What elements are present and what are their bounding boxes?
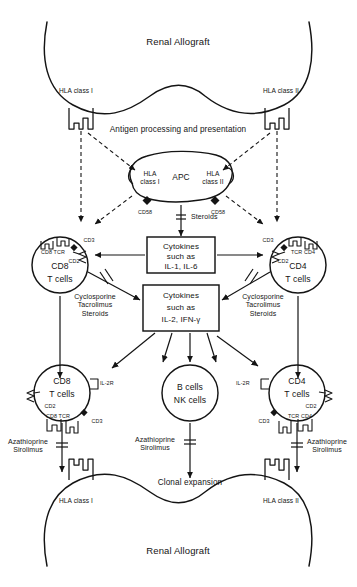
cd8-lower-line1: CD8 [53, 376, 71, 386]
cd8-upper-tcr-slot-b [57, 238, 69, 246]
proliferation-inhibitor-center-label: Azathioprine Sirolimus [135, 436, 175, 453]
arrow-il2-to-cd8-lower [112, 333, 155, 368]
graft-title-top: Renal Allograft [146, 36, 209, 47]
cytokine-box-1-line3: IL-1, IL-6 [164, 262, 197, 271]
cd4-lower-line2: T cells [284, 389, 309, 399]
arrow-il2-to-bnk-right [207, 333, 216, 362]
cd8-lower-cd3-label: CD3 [91, 418, 102, 424]
arrow-il2-to-cd4-lower [217, 336, 258, 366]
inhibition-bar-right-a [250, 272, 258, 284]
apc-cd58-left-label: CD58 [138, 209, 152, 215]
cd8-lower-il2r-receptor [90, 379, 98, 389]
apc-hla-class-i-label: HLA class I [140, 170, 159, 186]
cd4-lower-il2r-label: IL-2R [236, 380, 250, 386]
cd4-upper-line1: CD4 [289, 261, 307, 271]
dashed-arrow-apc-to-cd4 [226, 196, 263, 224]
graft-title-bottom: Renal Allograft [146, 545, 209, 556]
dashed-arrow-hla1-to-apc [88, 133, 135, 170]
apc-label: APC [172, 173, 190, 183]
cd8-upper-cd2-stem [73, 252, 79, 254]
cd4-lower-cd2-stem [319, 392, 325, 393]
inhibition-bar-left-b [105, 269, 113, 281]
inhibition-bar-right-b [245, 269, 253, 281]
cd4-upper-line2: T cells [285, 274, 310, 284]
cytokine-box-1-line2: such as [167, 252, 195, 261]
cd4-lower-cd2-zigzag [325, 390, 332, 402]
cd4-upper-cd2-label: CD2 [277, 258, 288, 264]
cd4-upper-cd2-stem [279, 252, 285, 254]
cd8-lower-line2: T cells [49, 389, 74, 399]
cd4-lower-cd3-label: CD3 [258, 418, 269, 424]
cd8-upper-line1: CD8 [51, 261, 69, 271]
cd4-lower-tcr-label: TCR CD4 [288, 413, 312, 419]
hla-class-ii-label-top: HLA class II [263, 87, 299, 95]
cd4-upper-cd3-label: CD3 [262, 237, 273, 243]
cd8-lower-il2r-label: IL-2R [100, 380, 114, 386]
cytokine-box-2-line1: Cytokines [163, 291, 199, 300]
proliferation-inhibitor-left-label: Azathioprine Sirolimus [8, 438, 48, 455]
cytokine-box-1-line1: Cytokines [163, 242, 199, 251]
proliferation-inhibitor-right-label: Azathioprine Sirolimus [307, 438, 347, 455]
cd4-lower-tcr-slot-b [279, 421, 291, 433]
dashed-arrow-apc-to-cd8 [95, 196, 132, 224]
cd4-lower-line1: CD4 [288, 376, 306, 386]
cd8-upper-cd3-label: CD3 [83, 237, 94, 243]
arrow-il2-to-bnk-left [163, 333, 172, 362]
cd8-upper-tcr-label: CD8 TCR [41, 249, 65, 255]
cd8-upper-cd2-label: CD2 [68, 258, 79, 264]
hla-class-i-label-top: HLA class I [59, 87, 93, 95]
figure-canvas: Renal Allograft HLA class I HLA class II… [0, 0, 357, 587]
cd4-upper-tcr-slot-b [289, 238, 301, 246]
apc-hla-class-ii-label: HLA class II [202, 170, 223, 186]
bnk-cell-outline [162, 365, 218, 421]
cd4-lower-cd3-marker [270, 409, 277, 416]
hla-class-ii-label-bottom: HLA class II [263, 497, 299, 505]
cd8-lower-tcr-label: CD8 TCR [46, 413, 70, 419]
steroids-inhibitor-label: Steroids [191, 213, 217, 221]
inhibition-bar-left-a [100, 272, 108, 284]
cd8-lower-tcr-slot-b [66, 421, 78, 433]
bnk-line2: NK cells [174, 395, 206, 405]
cd8-lower-cd2-stem [34, 392, 40, 393]
right-calcineurin-inhibitor-label: Cyclosporine Tacrolimus Steroids [242, 293, 284, 318]
antigen-presentation-caption: Antigen processing and presentation [110, 125, 246, 135]
cd4-lower-cd2-label: CD2 [305, 403, 316, 409]
cd8-upper-cd3-marker [70, 244, 77, 251]
left-calcineurin-inhibitor-label: Cyclosporine Tacrolimus Steroids [74, 293, 116, 318]
cd8-upper-line2: T cells [47, 274, 72, 284]
cd8-lower-cd2-zigzag [27, 390, 34, 402]
apc-hla1-notch [129, 168, 134, 184]
hla-class-i-label-bottom: HLA class I [59, 497, 93, 505]
cd4-lower-il2r-receptor [261, 379, 269, 389]
cd8-lower-cd2-label: CD2 [44, 403, 55, 409]
clonal-expansion-caption: Clonal expansion [158, 478, 222, 488]
cytokine-box-2-line3: IL-2, IFN-γ [162, 315, 201, 324]
cd4-upper-tcr-label: TCR CD4 [291, 249, 315, 255]
cytokine-box-2-line2: such as [167, 303, 195, 312]
cd8-lower-cd3-marker [80, 409, 87, 416]
bnk-line1: B cells [177, 382, 203, 392]
cd4-upper-cd3-marker [280, 244, 287, 251]
